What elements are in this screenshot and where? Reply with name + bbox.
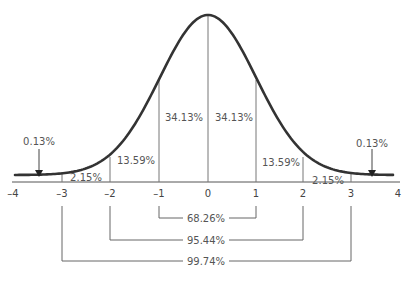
label-range-1sd: 68.26%: [187, 213, 225, 224]
label-range-2sd: 95.44%: [187, 235, 225, 246]
arrow-icon-left: [35, 149, 43, 177]
svg-text:1: 1: [253, 188, 259, 199]
svg-text:4: 4: [395, 188, 401, 199]
normal-distribution-diagram: 0.13% 0.13% 2.15% 13.59% 34.13% 34.13% 1…: [0, 0, 412, 281]
arrow-icon-right: [368, 149, 376, 177]
svg-text:–2: –2: [104, 188, 115, 199]
label-region-m2-m1: 13.59%: [117, 155, 155, 166]
svg-text:2: 2: [300, 188, 306, 199]
label-region-0-1: 34.13%: [215, 112, 253, 123]
svg-text:0: 0: [205, 188, 211, 199]
svg-text:3: 3: [348, 188, 354, 199]
label-tail-left: 0.13%: [23, 136, 55, 147]
svg-text:–1: –1: [153, 188, 164, 199]
label-region-m3-m2: 2.15%: [70, 172, 102, 183]
label-region-m1-0: 34.13%: [165, 112, 203, 123]
label-tail-right: 0.13%: [356, 138, 388, 149]
x-tick-labels: –4 –3 –2 –1 0 1 2 3 4: [7, 188, 401, 199]
svg-text:–4: –4: [7, 188, 18, 199]
bell-curve: [15, 15, 393, 175]
label-region-1-2: 13.59%: [262, 157, 300, 168]
label-range-3sd: 99.74%: [187, 256, 225, 267]
label-region-2-3: 2.15%: [312, 175, 344, 186]
svg-text:–3: –3: [56, 188, 67, 199]
